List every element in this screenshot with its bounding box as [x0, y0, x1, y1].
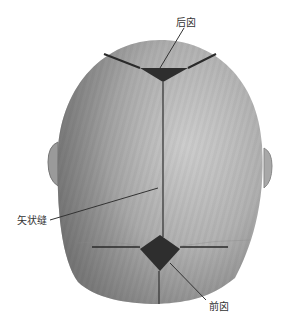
label-anterior-fontanelle: 前囟: [209, 298, 229, 313]
label-sagittal-suture: 矢状缝: [17, 212, 47, 227]
right-ear: [264, 148, 272, 188]
left-ear: [48, 142, 58, 186]
skull-diagram: [0, 0, 282, 324]
label-posterior-fontanelle: 后囟: [176, 14, 196, 29]
